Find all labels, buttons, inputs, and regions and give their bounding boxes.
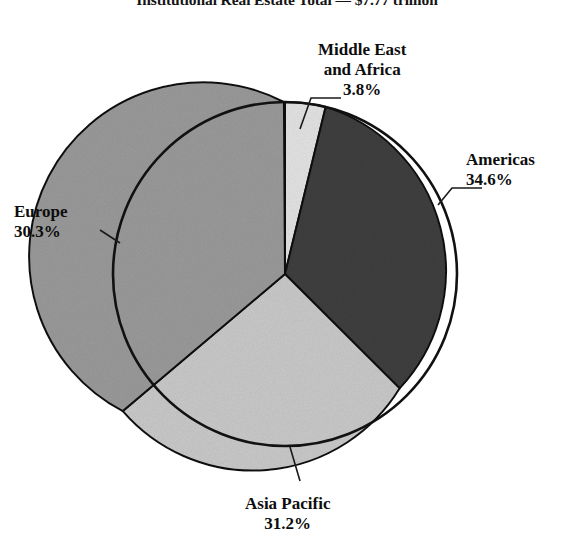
slice-label-line1: Middle East	[318, 40, 406, 60]
pie-slices	[29, 82, 446, 470]
slice-label-europe: Europe 30.3%	[14, 202, 68, 242]
slice-value-middle-east-and-africa: 3.8%	[318, 80, 406, 100]
pie-plot-area	[0, 0, 574, 553]
slice-label-line1: Asia Pacific	[245, 494, 330, 514]
slice-value-asia-pacific: 31.2%	[245, 514, 330, 534]
slice-label-asia-pacific: Asia Pacific 31.2%	[245, 494, 330, 534]
leader-line-americas	[438, 188, 482, 205]
slice-label-line2: and Africa	[318, 60, 406, 80]
slice-label-americas: Americas 34.6%	[466, 150, 535, 190]
slice-value-europe: 30.3%	[14, 222, 68, 242]
slice-value-americas: 34.6%	[466, 170, 535, 190]
slice-label-line1: Europe	[14, 202, 68, 222]
pie-svg	[0, 0, 574, 553]
pie-chart-figure: Institutional Real Estate Total — $7.77 …	[0, 0, 574, 553]
slice-label-line1: Americas	[466, 150, 535, 170]
slice-label-middle-east-and-africa: Middle East and Africa 3.8%	[318, 40, 406, 100]
